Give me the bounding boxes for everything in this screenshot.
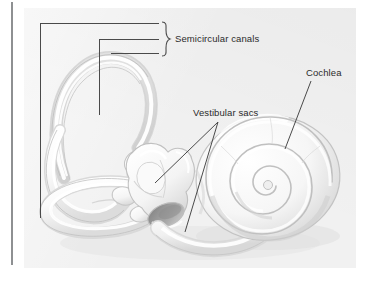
label-vestibular-sacs: Vestibular sacs [193, 107, 258, 118]
leader-cochlea [285, 81, 311, 149]
inner-ear-figure: Semicircular canals Vestibular sacs Coch… [0, 0, 370, 284]
leader-scc-2 [99, 39, 159, 115]
semicircular-canals-brace [162, 22, 170, 56]
label-semicircular-canals: Semicircular canals [175, 33, 259, 44]
label-cochlea: Cochlea [306, 67, 342, 78]
